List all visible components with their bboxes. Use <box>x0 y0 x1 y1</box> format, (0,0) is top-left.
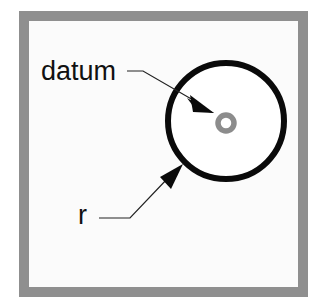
main-circle <box>168 63 284 179</box>
diagram-canvas: datum r <box>0 0 316 305</box>
radius-label: r <box>78 200 87 230</box>
datum-label: datum <box>41 56 116 86</box>
